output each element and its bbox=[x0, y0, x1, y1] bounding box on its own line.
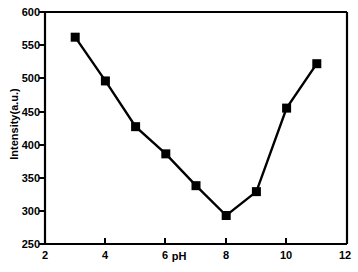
data-point-marker bbox=[161, 149, 170, 158]
data-point-marker bbox=[252, 187, 261, 196]
data-point-marker bbox=[71, 33, 80, 42]
axis-frame bbox=[45, 12, 347, 244]
data-point-marker bbox=[222, 211, 231, 220]
data-point-marker bbox=[282, 104, 291, 113]
chart-figure: 600 550 500 450 400 350 300 250 2 4 6 8 … bbox=[0, 0, 358, 272]
data-point-marker bbox=[192, 181, 201, 190]
plot-area bbox=[0, 0, 358, 272]
data-point-marker bbox=[101, 76, 110, 85]
data-point-marker bbox=[131, 122, 140, 131]
data-point-marker bbox=[312, 59, 321, 68]
series-markers-intensity bbox=[71, 33, 322, 220]
